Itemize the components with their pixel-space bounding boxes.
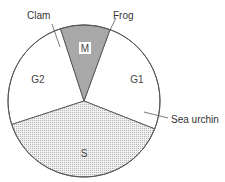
callout-label-sea-urchin: Sea urchin bbox=[171, 114, 219, 125]
segment-label-m: M bbox=[81, 43, 89, 54]
callout-label-frog: Frog bbox=[113, 10, 134, 21]
segment-label-g1: G1 bbox=[130, 74, 144, 85]
segment-label-g2: G2 bbox=[31, 74, 45, 85]
cell-cycle-pie-diagram: M G2 S G1 Clam Frog Sea urchin bbox=[0, 0, 225, 182]
callout-label-clam: Clam bbox=[27, 10, 50, 21]
segment-label-s: S bbox=[81, 148, 88, 159]
